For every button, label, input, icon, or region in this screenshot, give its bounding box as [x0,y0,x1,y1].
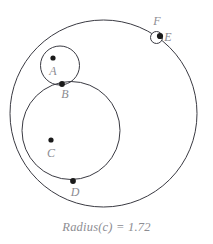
label-f: F [152,14,161,28]
label-b: B [61,87,69,101]
label-a: A [48,64,57,78]
radius-measurement-caption[interactable]: Radius(c) = 1.72 [0,220,213,235]
point-c[interactable] [48,137,53,142]
label-e: E [163,30,172,44]
point-d[interactable] [70,178,76,184]
geometry-figure: A B C D E F [0,0,213,244]
point-a[interactable] [50,55,55,60]
small-circle-a[interactable] [41,46,80,85]
label-c: C [47,146,56,160]
point-e[interactable] [157,33,163,39]
large-circle[interactable] [10,20,197,207]
medium-circle-c[interactable] [22,82,120,180]
label-d: D [70,185,80,199]
